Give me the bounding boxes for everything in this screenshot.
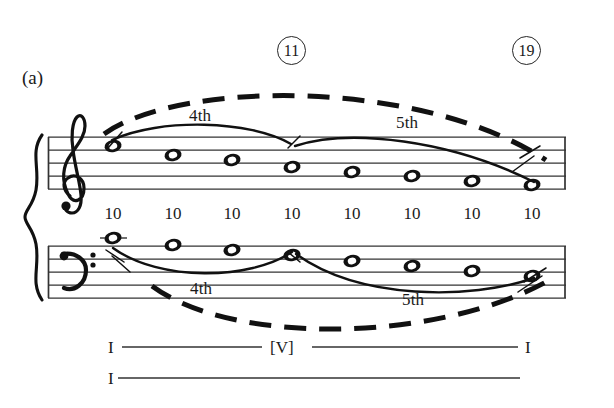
notehead-upper-3 <box>222 152 241 168</box>
figure-root: (a) 11 19 4th 5th 4th 5th 10 10 10 10 10… <box>0 0 614 408</box>
interval-number-5: 10 <box>338 205 366 222</box>
system-brace <box>25 135 42 300</box>
analysis-roman-numeral-i-right: I <box>525 339 531 356</box>
panel-label: (a) <box>22 68 43 87</box>
interval-number-1: 10 <box>99 205 127 222</box>
upper-slur-label-5th: 5th <box>396 114 418 131</box>
notehead-lower-3 <box>222 242 241 258</box>
bass-clef-dot-lower <box>90 262 95 267</box>
lower-slur-4th <box>113 248 292 273</box>
notehead-lower-2 <box>163 237 182 253</box>
interval-number-2: 10 <box>159 205 187 222</box>
lower-slur-label-5th: 5th <box>402 291 424 308</box>
measure-marker-19: 19 <box>512 36 541 65</box>
interval-number-8: 10 <box>518 205 546 222</box>
analysis-roman-numeral-i-bottom: I <box>108 370 114 387</box>
notehead-lower-7 <box>462 263 481 279</box>
lower-staff-lines <box>48 246 566 298</box>
upper-staff-noteheads <box>103 138 541 193</box>
interval-number-6: 10 <box>398 205 426 222</box>
bass-clef-dot-upper <box>90 252 95 257</box>
notehead-lower-1 <box>103 230 122 246</box>
analysis-roman-numeral-v-bracketed: [V] <box>270 339 294 356</box>
notehead-lower-5 <box>342 253 361 269</box>
interval-number-7: 10 <box>458 205 486 222</box>
treble-clef-dot <box>61 201 70 210</box>
interval-number-4: 10 <box>278 205 306 222</box>
notehead-upper-6 <box>402 168 421 184</box>
treble-clef-icon <box>64 116 85 213</box>
upper-slur-4th <box>112 125 291 144</box>
bass-clef-ball <box>60 252 69 261</box>
measure-marker-11: 11 <box>277 36 306 65</box>
notehead-upper-4 <box>282 159 301 175</box>
lower-staff-noteheads <box>103 230 541 284</box>
lower-slur-label-4th: 4th <box>190 280 212 297</box>
notehead-upper-8 <box>522 177 541 193</box>
lower-slur-5th <box>296 254 534 292</box>
upper-slur-label-4th: 4th <box>189 107 211 124</box>
analysis-roman-numeral-i-left: I <box>108 339 114 356</box>
notehead-upper-5 <box>342 164 361 180</box>
interval-number-3: 10 <box>218 205 246 222</box>
